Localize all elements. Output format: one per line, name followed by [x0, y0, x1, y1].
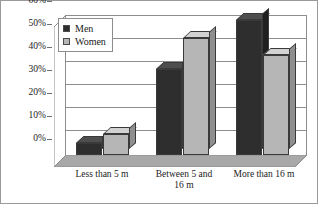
chart-legend[interactable]: Men Women — [58, 18, 113, 52]
y-tick-label-30: 30% — [29, 65, 46, 75]
bar-front-face — [236, 20, 262, 155]
legend-label-men: Men — [75, 24, 93, 34]
x-axis-label-more-than-16m: More than 16 m — [216, 169, 312, 180]
legend-item-women[interactable]: Women — [63, 35, 106, 48]
y-tick-label-20: 20% — [29, 88, 46, 98]
legend-swatch-women-icon — [63, 38, 70, 45]
y-axis: 0% 10% 20% 30% 40% 50% 60% — [1, 1, 54, 167]
y-tick-label-40: 40% — [29, 42, 46, 52]
x-axis-labels: Less than 5 m Between 5 and 16 m More th… — [54, 169, 307, 203]
bar-front-face — [156, 69, 182, 155]
bar-front-face — [76, 143, 102, 155]
y-tick-mark-60 — [47, 1, 52, 2]
x-axis-label-between-5-and-16m-line2: 16 m — [136, 180, 232, 191]
legend-item-men[interactable]: Men — [63, 22, 106, 35]
y-tick-mark-10 — [47, 116, 52, 117]
y-tick-mark-0 — [47, 139, 52, 140]
bar-right-face — [129, 122, 136, 149]
y-tick-mark-50 — [47, 24, 52, 25]
chart-frame: 0% 10% 20% 30% 40% 50% 60% — [0, 0, 318, 204]
bar-front-face — [263, 55, 289, 155]
bar-men-more-than-16m[interactable] — [236, 20, 262, 155]
y-tick-mark-20 — [47, 93, 52, 94]
bar-front-face — [183, 38, 209, 155]
y-tick-label-50: 50% — [29, 19, 46, 29]
y-tick-label-0: 0% — [33, 134, 46, 144]
y-tick-mark-30 — [47, 70, 52, 71]
bar-front-face — [103, 134, 129, 155]
y-tick-label-60: 60% — [29, 0, 46, 6]
bar-right-face — [289, 43, 296, 149]
legend-swatch-men-icon — [63, 25, 70, 32]
y-tick-label-10: 10% — [29, 111, 46, 121]
bar-women-between-5-and-16m[interactable] — [183, 38, 209, 155]
bar-men-less-than-5m[interactable] — [76, 143, 102, 155]
bar-women-less-than-5m[interactable] — [103, 134, 129, 155]
bar-right-face — [209, 26, 216, 149]
legend-label-women: Women — [75, 37, 106, 47]
bar-women-more-than-16m[interactable] — [263, 55, 289, 155]
y-tick-mark-40 — [47, 47, 52, 48]
bar-men-between-5-and-16m[interactable] — [156, 69, 182, 155]
